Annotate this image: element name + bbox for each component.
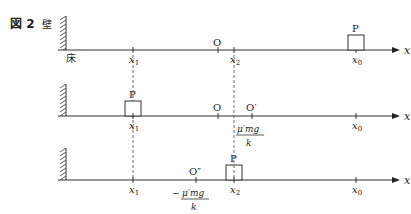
offset-numerator: μ′mg: [182, 188, 204, 198]
tick-x1: x1: [129, 120, 139, 133]
block-label: P: [129, 89, 136, 100]
tick-x0: x0: [352, 120, 362, 133]
tick-O: O: [213, 102, 221, 113]
tick-x0: x0: [352, 184, 362, 197]
floor-label: 床: [66, 52, 76, 64]
row-2: x P x1 O O′ μ′mg k x0: [58, 84, 411, 148]
block-P: [348, 35, 364, 50]
tick-O-prime: O′: [246, 102, 257, 113]
axis-label: x: [404, 44, 411, 57]
spring-block-diagram: 図 2 壁 x 床 x1 O x2 x0 P x P x1 O: [0, 0, 411, 214]
axis-label: x: [404, 110, 411, 123]
block-label: P: [352, 23, 359, 34]
row-3: x x1 O″ − μ′mg k P x2 x0: [58, 148, 411, 212]
tick-O: O: [213, 37, 221, 48]
tick-x2: x2: [230, 54, 240, 67]
tick-x1: x1: [129, 54, 139, 67]
offset-denominator: k: [246, 138, 251, 148]
offset-denominator: k: [191, 202, 196, 212]
tick-x2: x2: [230, 184, 240, 197]
tick-x0: x0: [352, 54, 362, 67]
offset-sign: −: [172, 188, 180, 198]
row-1: 壁 x 床 x1 O x2 x0 P: [42, 16, 411, 67]
wall-label: 壁: [42, 18, 52, 30]
tick-O-double-prime: O″: [189, 166, 201, 177]
axis-arrow-icon: [392, 113, 400, 119]
wall-hatch-icon: [60, 16, 66, 50]
wall-hatch-icon: [60, 148, 66, 180]
block-label: P: [230, 153, 237, 164]
figure-label: 図 2: [10, 17, 35, 31]
axis-label: x: [404, 174, 411, 187]
tick-x1: x1: [129, 184, 139, 197]
axis-arrow-icon: [392, 47, 400, 53]
wall-hatch-icon: [60, 84, 66, 116]
offset-numerator: μ′mg: [237, 124, 259, 134]
axis-arrow-icon: [392, 177, 400, 183]
